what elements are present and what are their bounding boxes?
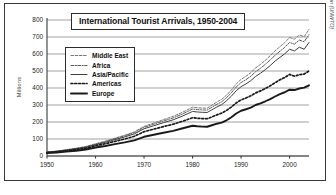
chart-legend: Middle EastAfricaAsia/PacificAmericasEur…: [65, 47, 135, 102]
y-tick-label: 700: [32, 33, 43, 40]
y-tick-label: 600: [32, 50, 43, 57]
legend-item-africa[interactable]: Africa: [70, 60, 129, 69]
legend-item-asia-pacific[interactable]: Asia/Pacific: [70, 70, 129, 79]
chart-frame: 0100200300400500600700800195019601970198…: [4, 3, 326, 181]
legend-item-middle-east[interactable]: Middle East: [70, 51, 129, 60]
legend-swatch-icon: [70, 51, 88, 60]
chart-plot-area: 0100200300400500600700800195019601970198…: [5, 4, 327, 182]
legend-label: Europe: [92, 90, 114, 97]
legend-label: Middle East: [92, 52, 128, 59]
x-tick-label: 1950: [40, 161, 55, 168]
legend-label: Americas: [92, 80, 121, 87]
source-credit: UN World Tourism Organization (UNWTO): [329, 0, 335, 44]
legend-item-europe[interactable]: Europe: [70, 89, 129, 98]
y-tick-label: 200: [32, 118, 43, 125]
legend-swatch-icon: [70, 70, 88, 79]
chart-title: International Tourist Arrivals, 1950-200…: [71, 13, 245, 30]
x-tick-label: 2000: [282, 161, 297, 168]
y-tick-label: 300: [32, 101, 43, 108]
legend-swatch-icon: [70, 79, 88, 88]
x-tick-label: 1970: [137, 161, 152, 168]
x-tick-label: 1990: [234, 161, 249, 168]
legend-item-americas[interactable]: Americas: [70, 79, 129, 88]
x-tick-label: 1960: [88, 161, 103, 168]
legend-label: Africa: [92, 62, 110, 69]
x-tick-label: 1980: [185, 161, 200, 168]
y-tick-label: 0: [39, 152, 43, 159]
legend-label: Asia/Pacific: [92, 71, 129, 78]
legend-swatch-icon: [70, 89, 88, 98]
y-axis-label: Millions: [16, 64, 22, 110]
y-tick-label: 100: [32, 135, 43, 142]
y-tick-label: 500: [32, 67, 43, 74]
y-tick-label: 800: [32, 16, 43, 23]
y-tick-label: 400: [32, 84, 43, 91]
legend-swatch-icon: [70, 61, 88, 70]
chart-svg: 0100200300400500600700800195019601970198…: [5, 4, 327, 182]
